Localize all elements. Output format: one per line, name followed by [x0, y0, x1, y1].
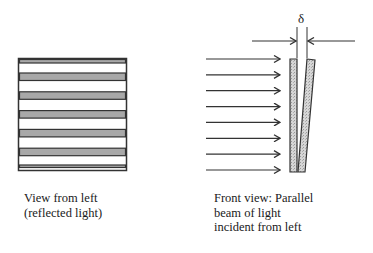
right-glass-plate — [298, 59, 315, 172]
left-view-fringe-pattern — [19, 59, 127, 171]
left-glass-plate — [290, 59, 297, 172]
fringe-band — [20, 148, 126, 156]
fringe-band — [20, 92, 126, 100]
fringe-band-partial-top — [20, 60, 126, 64]
left-view-caption: View from left (reflected light) — [24, 191, 102, 220]
caption-line: View from left — [24, 191, 102, 206]
front-view-caption: Front view: Parallel beam of light incid… — [214, 191, 313, 235]
fringe-band — [20, 129, 126, 137]
fringe-band-partial-bottom — [20, 165, 126, 168]
fringe-band — [20, 111, 126, 119]
gap-delta-label: δ — [298, 11, 304, 26]
caption-line: incident from left — [214, 220, 313, 235]
front-view-wedge: δ — [206, 11, 355, 172]
caption-line: Front view: Parallel — [214, 191, 313, 206]
caption-line: beam of light — [214, 206, 313, 221]
caption-line: (reflected light) — [24, 206, 102, 221]
fringe-band — [20, 73, 126, 81]
